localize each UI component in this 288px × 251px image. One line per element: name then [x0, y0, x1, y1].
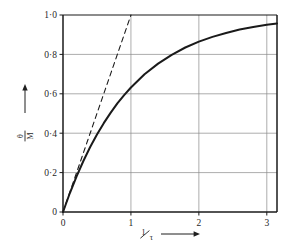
series-initial-tangent	[63, 15, 131, 212]
vertical-gridlines	[131, 15, 267, 212]
x-tick-label-2: 2	[196, 218, 201, 228]
y-axis-title: θ M	[16, 131, 36, 142]
data-series-group	[63, 15, 277, 212]
y-tick-label-0: 0	[52, 207, 57, 217]
y-tick-label-4: 0·8	[44, 50, 57, 60]
y-axis-arrow-head	[22, 84, 27, 91]
x-axis-title-denominator: τ	[150, 233, 154, 242]
y-axis-title-denominator: M	[26, 132, 35, 139]
x-axis-arrow-head	[194, 231, 200, 236]
y-tick-label-3: 0·6	[44, 89, 57, 99]
y-tick-label-1: 0·2	[44, 168, 57, 178]
horizontal-gridlines	[63, 54, 277, 172]
y-axis-title-group: θ M	[16, 84, 36, 141]
plot-frame	[60, 15, 278, 216]
x-tick-label-1: 1	[129, 218, 134, 228]
x-axis-title-group: 1 τ	[140, 228, 200, 242]
x-tick-label-0: 0	[61, 218, 66, 228]
x-tick-labels: 0123	[61, 218, 270, 228]
y-tick-label-2: 0·4	[44, 129, 57, 139]
y-tick-labels: 00·20·40·60·81·0	[44, 10, 57, 217]
exponential-rise-chart: 00·20·40·60·81·0 0123 θ M 1 τ	[0, 0, 288, 251]
y-tick-label-5: 1·0	[44, 10, 57, 20]
x-tick-label-3: 3	[264, 218, 269, 228]
x-axis-title: 1 τ	[140, 228, 153, 242]
y-axis-title-numerator: θ	[16, 134, 25, 138]
chart-figure: 00·20·40·60·81·0 0123 θ M 1 τ	[0, 0, 288, 251]
